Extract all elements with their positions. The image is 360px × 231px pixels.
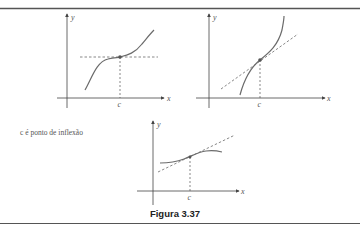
inflection-note: c é ponto de inflexão (20, 128, 83, 137)
x-axis-label: x (240, 187, 245, 196)
x-axis-label: x (166, 94, 171, 103)
graph-2: y x c (196, 13, 331, 109)
curve (85, 30, 154, 90)
inflection-point (118, 55, 122, 59)
c-label: c (118, 100, 122, 109)
c-label: c (258, 100, 262, 109)
y-axis-label: y (156, 120, 161, 129)
y-axis-label: y (70, 13, 75, 22)
c-label: c (188, 193, 192, 202)
figure-caption: Figura 3.37 (150, 208, 200, 219)
inflection-point (189, 156, 192, 159)
figure: y x c y x c c é ponto de inflexão y x c … (0, 0, 360, 231)
y-axis-label: y (212, 13, 217, 22)
graph-1: y x c (57, 13, 171, 109)
curve (240, 16, 284, 95)
x-axis-label: x (326, 94, 331, 103)
inflection-point (258, 58, 262, 62)
graph-3: y x c (137, 120, 245, 205)
